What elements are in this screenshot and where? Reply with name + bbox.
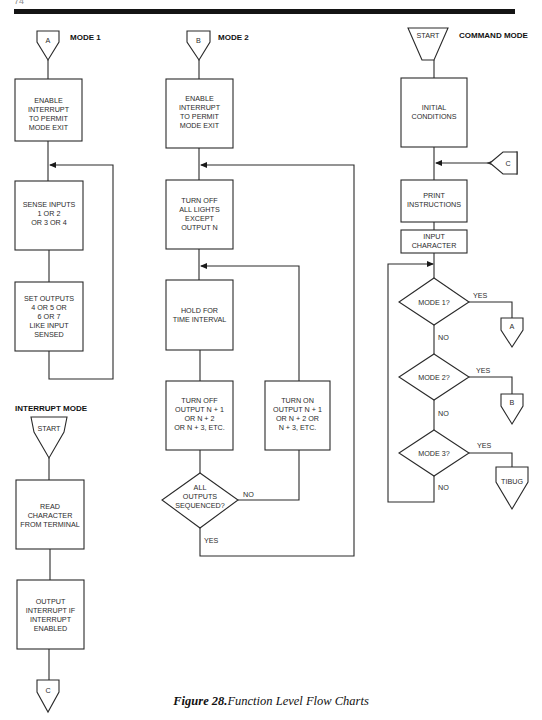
- svg-text:NO: NO: [438, 483, 449, 492]
- svg-text:N + 3, ETC.: N + 3, ETC.: [279, 423, 317, 432]
- command-mode-title: COMMAND MODE: [459, 31, 529, 40]
- svg-text:INSTRUCTIONS: INSTRUCTIONS: [407, 200, 461, 209]
- svg-text:MODE 3?: MODE 3?: [418, 449, 450, 458]
- command-step-print-instructions: PRINT INSTRUCTIONS: [401, 180, 467, 222]
- svg-text:LIKE INPUT: LIKE INPUT: [29, 321, 69, 330]
- svg-text:OR N + 3, ETC.: OR N + 3, ETC.: [174, 423, 225, 432]
- svg-text:C: C: [505, 159, 510, 168]
- connector-start-interrupt: START: [31, 417, 67, 458]
- interrupt-step-output-interrupt: OUTPUT INTERRUPT IF INTERRUPT ENABLED: [17, 580, 84, 649]
- svg-text:TIBUG: TIBUG: [501, 477, 523, 486]
- command-loop-arrow-icon: [427, 261, 434, 267]
- svg-text:INTERRUPT: INTERRUPT: [179, 103, 221, 112]
- mode1-step-set-outputs: SET OUTPUTS 4 OR 5 OR 6 OR 7 LIKE INPUT …: [15, 282, 83, 351]
- svg-text:OUTPUT: OUTPUT: [36, 597, 66, 606]
- mode2-title: MODE 2: [218, 33, 249, 42]
- mode1-loop-arrow-icon: [49, 162, 56, 168]
- mode2-outer-loop-arrow-icon: [200, 162, 207, 168]
- mode2-no-label: NO: [243, 490, 254, 499]
- svg-text:OR N + 2: OR N + 2: [184, 414, 214, 423]
- svg-text:INPUT: INPUT: [423, 232, 445, 241]
- mode2-step-turn-on-output: TURN ON OUTPUT N + 1 OR N + 2 OR N + 3, …: [265, 381, 330, 450]
- mode1-step-sense-inputs: SENSE INPUTS 1 OR 2 OR 3 OR 4: [15, 181, 83, 250]
- mode1-step-enable-interrupt: ENABLE INTERRUPT TO PERMIT MODE EXIT: [15, 79, 82, 141]
- svg-text:ENABLED: ENABLED: [34, 624, 68, 633]
- mode2-step-hold-interval: HOLD FOR TIME INTERVAL: [166, 280, 233, 350]
- mode2-decision-all-outputs-sequenced: ALL OUTPUTS SEQUENCED?: [162, 473, 238, 528]
- svg-text:SENSED: SENSED: [34, 330, 64, 339]
- svg-text:CHARACTER: CHARACTER: [412, 241, 457, 250]
- connector-b-entry: B: [187, 31, 210, 60]
- svg-text:FROM TERMINAL: FROM TERMINAL: [20, 520, 79, 529]
- svg-text:OR 3 OR 4: OR 3 OR 4: [31, 218, 67, 227]
- connector-a-entry: A: [37, 31, 59, 60]
- connector-c-reentry: C: [488, 152, 517, 174]
- svg-text:A: A: [510, 322, 515, 331]
- svg-text:YES: YES: [477, 441, 492, 450]
- command-reentry-arrow-icon: [435, 160, 442, 166]
- svg-text:4 OR 5 OR: 4 OR 5 OR: [31, 303, 67, 312]
- svg-text:MODE EXIT: MODE EXIT: [180, 121, 220, 130]
- interrupt-mode-flowchart: INTERRUPT MODE START READ CHARACTER FROM…: [15, 404, 88, 712]
- svg-text:OUTPUT N + 1: OUTPUT N + 1: [273, 405, 322, 414]
- svg-text:TURN ON: TURN ON: [281, 396, 314, 405]
- mode1-flowchart: MODE 1 A ENABLE INTERRUPT TO PERMIT MODE…: [15, 31, 113, 379]
- svg-text:B: B: [196, 36, 201, 45]
- svg-text:OUTPUT N + 1: OUTPUT N + 1: [175, 405, 224, 414]
- mode2-inner-loop-arrow-icon: [200, 263, 207, 269]
- svg-text:TURN OFF: TURN OFF: [181, 196, 218, 205]
- svg-text:EXCEPT: EXCEPT: [185, 214, 214, 223]
- svg-text:PRINT: PRINT: [423, 191, 445, 200]
- svg-text:INTERRUPT IF: INTERRUPT IF: [26, 606, 76, 615]
- interrupt-step-read-character: READ CHARACTER FROM TERMINAL: [16, 480, 84, 549]
- mode2-flowchart: MODE 2 B ENABLE INTERRUPT TO PERMIT MODE…: [162, 31, 354, 556]
- svg-text:MODE 2?: MODE 2?: [418, 373, 450, 382]
- svg-text:READ: READ: [40, 502, 60, 511]
- svg-text:SET OUTPUTS: SET OUTPUTS: [24, 294, 74, 303]
- svg-text:YES: YES: [473, 291, 488, 300]
- connector-tibug-target: TIBUG: [496, 467, 528, 509]
- figure-label: Figure 28.: [173, 694, 227, 708]
- svg-text:OUTPUTS: OUTPUTS: [183, 492, 218, 501]
- svg-text:NO: NO: [438, 333, 449, 342]
- svg-text:YES: YES: [476, 366, 491, 375]
- svg-text:TURN OFF: TURN OFF: [181, 396, 218, 405]
- svg-text:ALL LIGHTS: ALL LIGHTS: [179, 205, 220, 214]
- svg-text:OR N + 2 OR: OR N + 2 OR: [276, 414, 319, 423]
- mode2-step-turn-off-all-lights: TURN OFF ALL LIGHTS EXCEPT OUTPUT N: [166, 180, 233, 249]
- mode2-step-turn-off-output: TURN OFF OUTPUT N + 1 OR N + 2 OR N + 3,…: [166, 381, 233, 450]
- svg-text:1 OR 2: 1 OR 2: [38, 209, 61, 218]
- svg-text:CHARACTER: CHARACTER: [28, 511, 73, 520]
- command-step-input-character: INPUT CHARACTER: [401, 230, 467, 253]
- svg-text:INITIAL: INITIAL: [422, 103, 446, 112]
- svg-text:ENABLE: ENABLE: [185, 94, 214, 103]
- flowchart-diagram: MODE 1 A ENABLE INTERRUPT TO PERMIT MODE…: [0, 0, 542, 720]
- command-mode-flowchart: COMMAND MODE START INITIAL CONDITIONS C …: [388, 28, 529, 509]
- svg-text:MODE 1?: MODE 1?: [418, 298, 450, 307]
- svg-text:CONDITIONS: CONDITIONS: [411, 112, 456, 121]
- connector-a-target: A: [501, 318, 523, 347]
- svg-text:ENABLE: ENABLE: [34, 96, 63, 105]
- svg-text:B: B: [510, 398, 515, 407]
- svg-text:NO: NO: [438, 409, 449, 418]
- svg-text:SEQUENCED?: SEQUENCED?: [175, 501, 225, 510]
- svg-text:START: START: [38, 424, 62, 433]
- connector-start-command: START: [408, 28, 448, 60]
- command-decision-mode3: MODE 3?: [399, 430, 469, 476]
- svg-text:TIME INTERVAL: TIME INTERVAL: [173, 315, 227, 324]
- mode2-step-enable-interrupt: ENABLE INTERRUPT TO PERMIT MODE EXIT: [166, 79, 233, 148]
- connector-b-target: B: [501, 394, 523, 424]
- svg-text:6 OR 7: 6 OR 7: [38, 312, 61, 321]
- svg-text:TO PERMIT: TO PERMIT: [180, 112, 220, 121]
- svg-text:A: A: [46, 36, 51, 45]
- mode2-yes-label: YES: [204, 536, 219, 545]
- figure-caption: Figure 28.Function Level Flow Charts: [0, 694, 542, 709]
- command-step-initial-conditions: INITIAL CONDITIONS: [401, 78, 467, 147]
- figure-title: Function Level Flow Charts: [227, 694, 368, 708]
- svg-text:ALL: ALL: [194, 483, 207, 492]
- svg-text:HOLD FOR: HOLD FOR: [181, 306, 218, 315]
- svg-text:TO PERMIT: TO PERMIT: [29, 114, 69, 123]
- svg-text:INTERRUPT: INTERRUPT: [30, 615, 72, 624]
- svg-text:INTERRUPT: INTERRUPT: [28, 105, 70, 114]
- command-decision-mode2: MODE 2?: [399, 354, 469, 400]
